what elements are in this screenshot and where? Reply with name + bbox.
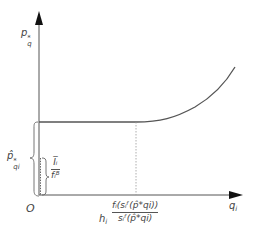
x-axis-label-sub: i (235, 205, 237, 213)
x-marker-fraction: fᵢ(sᵢᶠ(p̂*qi)) sᵢᶠ(p̂*qi) (112, 201, 158, 224)
x-marker-denominator: sᵢᶠ(p̂*qi) (118, 214, 152, 224)
x-marker-numerator: fᵢ(sᵢᶠ(p̂*qi)) (112, 201, 158, 211)
x-axis-label: qi (229, 201, 237, 213)
x-marker-prefix: hi (99, 214, 107, 226)
brace-label-price: p̂*qi (7, 151, 20, 171)
inner-brace-icon (42, 158, 49, 195)
y-axis-arrow-icon (35, 11, 43, 25)
y-axis-label: p*q (21, 28, 32, 48)
inner-fraction: I̅ᵢ fᵢᴮ (51, 158, 60, 181)
inner-fraction-numerator: I̅ᵢ (53, 158, 57, 168)
outer-brace-icon (30, 122, 39, 196)
price-curve (39, 67, 235, 122)
x-axis-arrow-icon (229, 191, 243, 199)
origin-label: O (26, 203, 35, 214)
x-axis (39, 191, 243, 199)
inner-fraction-denominator: fᵢᴮ (51, 171, 60, 181)
y-axis (35, 11, 43, 195)
x-marker-prefix-sub: i (105, 218, 107, 226)
brace-label-sub: qi (13, 164, 19, 170)
y-axis-label-sub: q (27, 41, 31, 47)
